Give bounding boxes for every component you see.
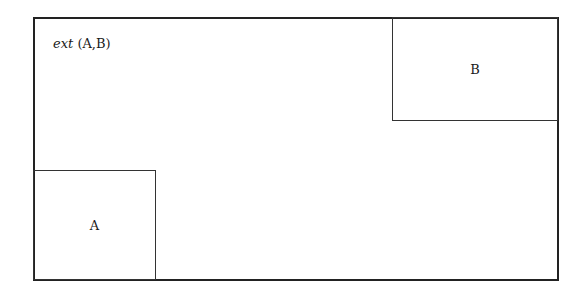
box-a-label: A	[90, 218, 99, 233]
extent-label-args: (A,B)	[73, 36, 110, 51]
extent-label: ext (A,B)	[53, 36, 111, 52]
box-b: B	[392, 17, 558, 121]
box-a: A	[33, 170, 156, 280]
extent-label-function: ext	[53, 36, 73, 51]
box-b-label: B	[470, 62, 480, 77]
